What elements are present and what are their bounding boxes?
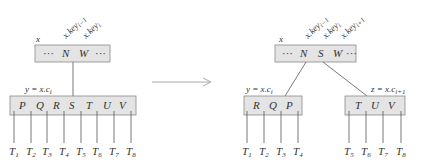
subtree-label: T8 (126, 145, 136, 159)
child-y-label: y = x.ci (245, 84, 273, 96)
transition-arrow-icon (152, 78, 211, 86)
child-key: R (52, 99, 60, 111)
left-child-edge (285, 62, 306, 96)
left-subtree-edges (247, 111, 298, 143)
left-subtree-labels: T1 T2 T3 T4 (242, 145, 303, 159)
before-state: x x.keyi−1 x.keyi ··· N W ··· y = x.ci P… (9, 13, 136, 159)
parent-key: W (79, 47, 89, 59)
subtree-label: T2 (26, 145, 36, 159)
subtree-label: T4 (59, 145, 69, 159)
subtree-label: T3 (42, 145, 52, 159)
parent-key-ellipsis-right: ··· (346, 47, 357, 59)
subtree-label: T5 (76, 145, 86, 159)
child-key: P (18, 99, 26, 111)
parent-key-promoted: S (318, 47, 324, 59)
subtree-label: T5 (344, 145, 354, 159)
right-subtree-edges (349, 111, 401, 143)
subtree-label: T1 (242, 145, 252, 159)
parent-key: W (333, 47, 343, 59)
node-x-label: x (35, 34, 40, 44)
child-key: T (355, 99, 362, 111)
subtree-label: T6 (92, 145, 102, 159)
child-key: T (86, 99, 93, 111)
subtree-label: T3 (276, 145, 286, 159)
parent-key: N (61, 47, 70, 59)
subtree-edges (14, 111, 131, 143)
subtree-label: T4 (293, 145, 303, 159)
child-y-label: y = x.ci (24, 84, 52, 96)
right-child-edge (323, 62, 367, 96)
parent-key-ellipsis-right: ··· (95, 47, 106, 59)
subtree-label: T7 (109, 145, 119, 159)
after-state: x x.keyi−1 x.keyi x.keyi+1 ··· N S W ···… (242, 13, 406, 159)
child-key: S (69, 99, 75, 111)
subtree-label: T8 (396, 145, 406, 159)
parent-key-ellipsis-left: ··· (282, 47, 293, 59)
child-key: P (285, 99, 293, 111)
parent-key-ellipsis-left: ··· (43, 47, 54, 59)
child-key: U (371, 99, 380, 111)
parent-key: N (299, 47, 308, 59)
child-key: U (103, 99, 112, 111)
btree-split-diagram: x x.keyi−1 x.keyi ··· N W ··· y = x.ci P… (0, 0, 426, 164)
node-x-label: x (278, 34, 283, 44)
child-key: Q (269, 99, 277, 111)
child-z-label: z = x.ci+1 (370, 84, 406, 96)
child-key: R (252, 99, 260, 111)
subtree-label: T7 (378, 145, 388, 159)
right-subtree-labels: T5 T6 T7 T8 (344, 145, 406, 159)
child-key: Q (36, 99, 44, 111)
subtree-label: T6 (361, 145, 371, 159)
subtree-labels: T1 T2 T3 T4 T5 T6 T7 T8 (9, 145, 136, 159)
subtree-label: T2 (259, 145, 269, 159)
subtree-label: T1 (9, 145, 19, 159)
